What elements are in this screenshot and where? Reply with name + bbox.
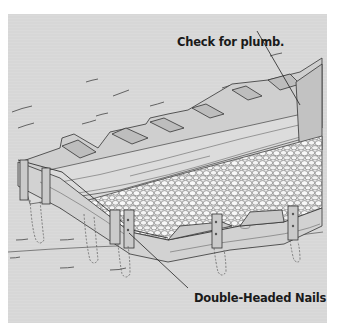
label-double-headed-nails: Double-Headed Nails bbox=[194, 291, 326, 305]
illustration-panel: Check for plumb. Double-Headed Nails bbox=[8, 14, 327, 323]
slab-form-illustration bbox=[8, 14, 327, 323]
label-check-for-plumb: Check for plumb. bbox=[177, 35, 284, 49]
